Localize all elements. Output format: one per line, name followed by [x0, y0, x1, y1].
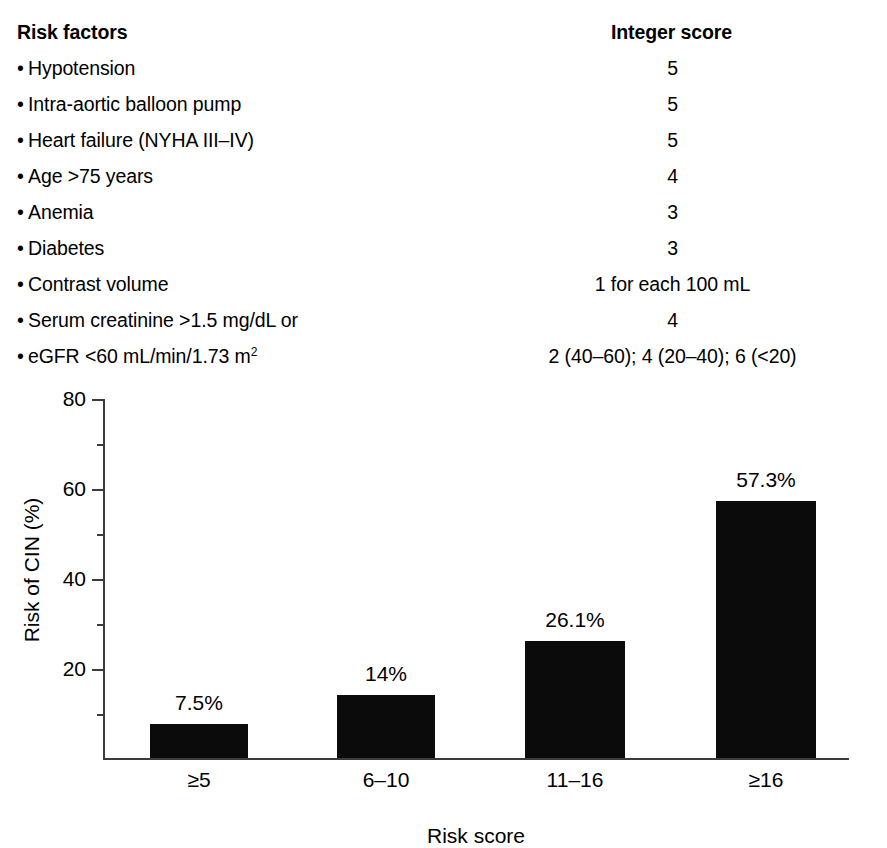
risk-factor-label: •Diabetes — [17, 230, 104, 266]
y-tick-30 — [97, 624, 104, 626]
x-axis-title: Risk score — [103, 824, 849, 848]
bullet-icon: • — [17, 158, 28, 194]
risk-factor-label: •Serum creatinine >1.5 mg/dL or — [17, 302, 298, 338]
column-header-integer-score: Integer score — [505, 14, 838, 50]
risk-factor-text: eGFR <60 mL/min/1.73 m — [28, 345, 251, 367]
integer-score-value: 1 for each 100 mL — [500, 266, 845, 302]
risk-factor-label: •Contrast volume — [17, 266, 168, 302]
table-row: •Contrast volume 1 for each 100 mL — [0, 266, 887, 302]
x-axis-line — [103, 758, 849, 760]
table-row: •Heart failure (NYHA III–IV) 5 — [0, 122, 887, 158]
risk-factors-table: Risk factors Integer score •Hypotension … — [0, 0, 887, 372]
risk-factor-label: •Age >75 years — [17, 158, 153, 194]
bullet-icon: • — [17, 194, 28, 230]
x-tick-label-6-10: 6–10 — [306, 768, 466, 792]
bar-risk-score-11-16 — [525, 641, 625, 758]
risk-factor-text: Diabetes — [28, 237, 104, 259]
bullet-icon: • — [17, 86, 28, 122]
integer-score-value: 5 — [500, 122, 845, 158]
risk-factor-text: Anemia — [28, 201, 94, 223]
column-header-risk-factors: Risk factors — [17, 14, 127, 50]
table-row: •Serum creatinine >1.5 mg/dL or 4 — [0, 302, 887, 338]
risk-factor-label: •Anemia — [17, 194, 94, 230]
bar-value-label-6-10: 14% — [306, 662, 466, 686]
superscript-exponent: 2 — [251, 345, 258, 359]
bar-value-label-ge16: 57.3% — [686, 468, 846, 492]
risk-factor-text: Intra-aortic balloon pump — [28, 93, 241, 115]
table-row: •Age >75 years 4 — [0, 158, 887, 194]
risk-factor-label: •Intra-aortic balloon pump — [17, 86, 241, 122]
risk-factor-label: •Hypotension — [17, 50, 135, 86]
bullet-icon: • — [17, 230, 28, 266]
x-tick-label-11-16: 11–16 — [495, 768, 655, 792]
integer-score-value: 2 (40–60); 4 (20–40); 6 (<20) — [500, 338, 845, 374]
risk-factor-text: Hypotension — [28, 57, 135, 79]
y-tick-60 — [92, 489, 104, 491]
x-tick-label-ge5: ≥5 — [119, 768, 279, 792]
table-header-row: Risk factors Integer score — [0, 14, 887, 50]
risk-factor-text: Age >75 years — [28, 165, 153, 187]
y-tick-label-80: 80 — [28, 387, 86, 411]
bar-value-label-11-16: 26.1% — [495, 608, 655, 632]
risk-factor-text: Heart failure (NYHA III–IV) — [28, 129, 254, 151]
integer-score-value: 4 — [500, 158, 845, 194]
integer-score-value: 5 — [500, 50, 845, 86]
y-tick-40 — [92, 579, 104, 581]
cin-risk-bar-chart: 80 60 40 20 Risk of CIN (%) 7.5% 14% 26.… — [0, 372, 887, 848]
y-tick-20 — [92, 669, 104, 671]
table-row: •Hypotension 5 — [0, 50, 887, 86]
bullet-icon: • — [17, 50, 28, 86]
risk-factor-label: •eGFR <60 mL/min/1.73 m2 — [17, 338, 257, 374]
y-tick-50 — [97, 534, 104, 536]
bar-risk-score-ge5 — [150, 724, 248, 758]
y-tick-80 — [92, 399, 104, 401]
x-tick-label-ge16: ≥16 — [686, 768, 846, 792]
risk-factor-text: Serum creatinine >1.5 mg/dL or — [28, 309, 298, 331]
integer-score-value: 4 — [500, 302, 845, 338]
bar-value-label-ge5: 7.5% — [119, 691, 279, 715]
integer-score-value: 5 — [500, 86, 845, 122]
table-row: •eGFR <60 mL/min/1.73 m2 2 (40–60); 4 (2… — [0, 338, 887, 374]
bar-risk-score-ge16 — [716, 501, 816, 758]
risk-factor-text: Contrast volume — [28, 273, 168, 295]
table-row: •Anemia 3 — [0, 194, 887, 230]
bullet-icon: • — [17, 338, 28, 374]
integer-score-value: 3 — [500, 230, 845, 266]
table-row: •Diabetes 3 — [0, 230, 887, 266]
y-axis-title: Risk of CIN (%) — [20, 450, 44, 690]
bullet-icon: • — [17, 122, 28, 158]
y-tick-70 — [97, 444, 104, 446]
bullet-icon: • — [17, 266, 28, 302]
bar-risk-score-6-10 — [337, 695, 435, 758]
risk-factor-label: •Heart failure (NYHA III–IV) — [17, 122, 254, 158]
bullet-icon: • — [17, 302, 28, 338]
integer-score-value: 3 — [500, 194, 845, 230]
table-row: •Intra-aortic balloon pump 5 — [0, 86, 887, 122]
y-tick-10 — [97, 714, 104, 716]
